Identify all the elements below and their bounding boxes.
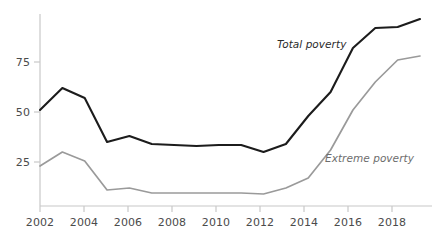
poverty-line-chart: 75 50 25 2002 2004 2006 2008 2010 2012 2… [0, 0, 436, 238]
x-tick-label-2014: 2014 [280, 216, 328, 229]
x-tick-label-2010: 2010 [192, 216, 240, 229]
series-line-extreme-poverty [40, 56, 420, 194]
x-tick-label-2016: 2016 [324, 216, 372, 229]
x-axis-ticks [40, 206, 392, 212]
y-tick-label-75: 75 [8, 56, 30, 69]
x-tick-label-2012: 2012 [236, 216, 284, 229]
x-tick-label-2002: 2002 [16, 216, 64, 229]
y-tick-label-50: 50 [8, 106, 30, 119]
x-tick-label-2018: 2018 [368, 216, 416, 229]
x-tick-label-2008: 2008 [148, 216, 196, 229]
series-line-total-poverty [40, 19, 420, 152]
y-axis-ticks [34, 62, 40, 162]
x-tick-label-2004: 2004 [60, 216, 108, 229]
y-tick-label-25: 25 [8, 156, 30, 169]
series-annotation-extreme-poverty: Extreme poverty [325, 152, 414, 164]
chart-plot-area [0, 0, 436, 238]
series-annotation-total-poverty: Total poverty [277, 38, 346, 50]
x-tick-label-2006: 2006 [104, 216, 152, 229]
